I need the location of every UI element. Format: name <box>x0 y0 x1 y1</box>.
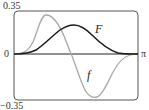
y-tick-top: 0.35 <box>3 1 21 11</box>
y-tick-zero: 0 <box>4 49 9 59</box>
label-F: F <box>95 23 102 35</box>
plot-frame <box>14 11 138 100</box>
y-tick-bottom: −0.35 <box>0 101 23 110</box>
x-tick-pi: π <box>141 49 146 59</box>
plot-svg <box>0 0 149 110</box>
chart-container: 0.35 0 −0.35 π F f <box>0 0 149 110</box>
F-curve <box>14 25 138 54</box>
f-curve <box>14 15 138 97</box>
label-f: f <box>87 69 90 81</box>
